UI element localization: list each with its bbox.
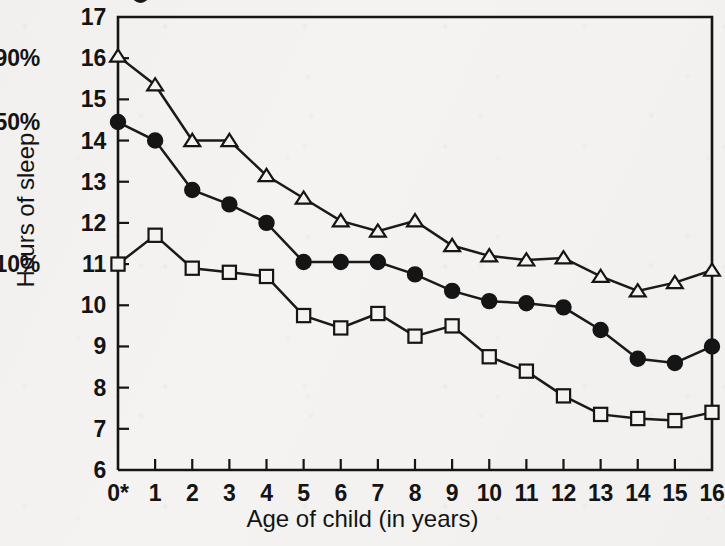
series-line-90pct xyxy=(118,56,712,291)
data-point-marker-triangle-open xyxy=(704,264,720,276)
data-point-marker-triangle-open xyxy=(110,49,126,61)
data-point-marker-circle-filled xyxy=(705,339,720,354)
data-point-marker-square-open xyxy=(631,412,644,425)
percentile-label: 90% xyxy=(0,47,40,70)
series-line-10pct xyxy=(118,235,712,420)
data-point-marker-circle-filled xyxy=(296,255,311,270)
data-point-marker-circle-filled xyxy=(445,283,460,298)
data-point-marker-square-open xyxy=(149,229,162,242)
data-point-marker-square-open xyxy=(408,330,421,343)
data-point-marker-circle-filled xyxy=(259,216,274,231)
y-axis-title: Hours of sleep xyxy=(12,120,40,300)
data-point-marker-circle-filled xyxy=(408,267,423,282)
series-line-50pct xyxy=(118,122,712,363)
y-tick-label: 15 xyxy=(10,88,106,111)
data-point-marker-square-open xyxy=(446,319,459,332)
data-point-marker-circle-filled xyxy=(333,255,348,270)
data-point-marker-circle-filled xyxy=(185,183,200,198)
y-tick-label: 6 xyxy=(10,459,106,482)
data-point-marker-circle-filled xyxy=(630,351,645,366)
data-point-marker-circle-filled xyxy=(667,356,682,371)
data-point-marker-circle-filled xyxy=(148,133,163,148)
data-point-marker-square-open xyxy=(186,262,199,275)
data-point-marker-square-open xyxy=(520,365,533,378)
data-point-marker-square-open xyxy=(668,414,681,427)
chart-plot-area xyxy=(0,0,725,546)
x-tick-label: 16 xyxy=(682,482,725,505)
data-point-marker-triangle-open xyxy=(407,214,423,226)
sleep-hours-chart-figure: 1716151413121110987690%50%10%0*123456789… xyxy=(0,0,725,546)
y-tick-label: 9 xyxy=(10,335,106,358)
data-point-marker-circle-filled xyxy=(556,300,571,315)
data-point-marker-square-open xyxy=(557,389,570,402)
data-point-marker-circle-filled xyxy=(370,255,385,270)
y-tick-label: 8 xyxy=(10,377,106,400)
data-point-marker-circle-filled xyxy=(593,323,608,338)
data-point-marker-square-open xyxy=(705,406,718,419)
data-point-marker-circle-filled xyxy=(222,197,237,212)
x-axis-title: Age of child (in years) xyxy=(0,505,725,533)
data-point-marker-triangle-open xyxy=(296,191,312,203)
data-point-marker-square-open xyxy=(111,257,124,270)
data-point-marker-square-open xyxy=(297,309,310,322)
data-point-marker-triangle-open xyxy=(333,214,349,226)
data-point-marker-square-open xyxy=(371,307,384,320)
data-point-marker-circle-filled xyxy=(519,296,534,311)
chart-frame xyxy=(118,17,712,470)
data-point-marker-circle-filled xyxy=(482,294,497,309)
data-point-marker-triangle-open xyxy=(593,270,609,282)
y-tick-label: 7 xyxy=(10,418,106,441)
data-point-marker-square-open xyxy=(260,270,273,283)
data-point-marker-square-open xyxy=(334,321,347,334)
data-point-marker-circle-filled xyxy=(111,115,126,130)
y-tick-label: 17 xyxy=(10,6,106,29)
data-point-marker-square-open xyxy=(223,266,236,279)
data-point-marker-square-open xyxy=(483,350,496,363)
data-point-marker-square-open xyxy=(594,408,607,421)
